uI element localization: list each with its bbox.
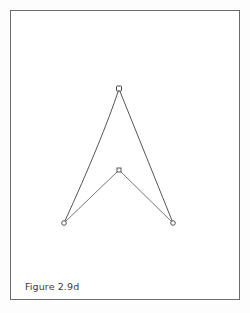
inner-point-marker: [117, 168, 121, 172]
left-point-marker: [62, 221, 67, 226]
figure-canvas: Figure 2.9d: [0, 0, 250, 313]
arrowhead-diagram: [0, 0, 250, 313]
outer-right-line: [119, 89, 173, 223]
apex-point-marker: [117, 86, 122, 91]
right-point-marker: [171, 221, 176, 226]
figure-caption: Figure 2.9d: [25, 281, 79, 292]
outer-left-curve: [64, 89, 119, 223]
inner-left-line: [64, 170, 119, 223]
inner-right-line: [119, 170, 173, 223]
